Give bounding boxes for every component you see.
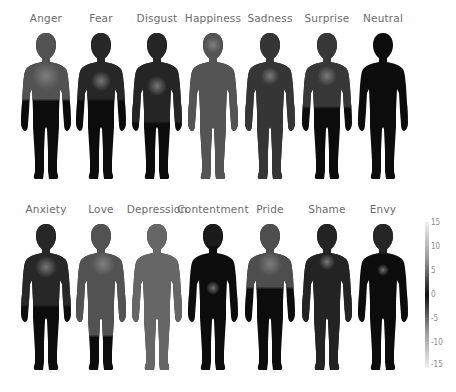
body-silhouette — [355, 30, 411, 182]
body-silhouette — [129, 221, 185, 373]
body-silhouette — [242, 221, 298, 373]
body-silhouette — [73, 30, 129, 182]
body-silhouette — [18, 30, 74, 182]
colorbar-tick: -15 — [431, 360, 443, 369]
colorbar-tick: 5 — [431, 266, 436, 275]
colorbar-tick: -5 — [431, 314, 438, 323]
colorbar-tick: 0 — [431, 290, 436, 299]
body-silhouette — [242, 30, 298, 182]
body-silhouette — [185, 221, 241, 373]
body-silhouette — [355, 221, 411, 373]
emotion-label: Envy — [345, 203, 421, 215]
colorbar — [425, 222, 429, 368]
colorbar-tick: 15 — [431, 218, 440, 227]
body-silhouette — [129, 30, 185, 182]
body-silhouette — [299, 221, 355, 373]
body-silhouette — [185, 30, 241, 182]
body-silhouette — [18, 221, 74, 373]
body-silhouette — [73, 221, 129, 373]
body-silhouette — [299, 30, 355, 182]
colorbar-tick: 10 — [431, 242, 440, 251]
emotion-label: Neutral — [345, 12, 421, 24]
colorbar-tick: -10 — [431, 338, 443, 347]
